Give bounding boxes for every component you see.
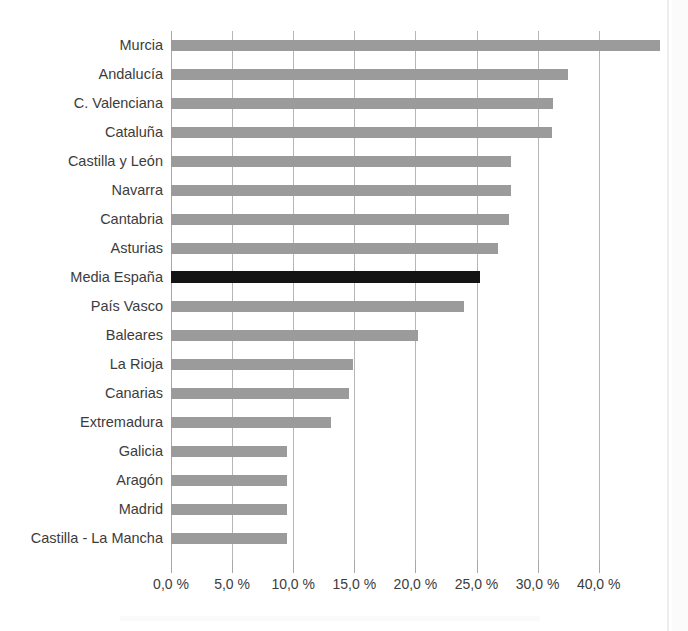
category-label: Navarra (0, 176, 163, 205)
category-label: Cataluña (0, 118, 163, 147)
chart-row: Extremadura (0, 408, 688, 437)
chart-row: Baleares (0, 321, 688, 350)
bar (171, 69, 568, 80)
x-axis-tickmarks (0, 560, 688, 574)
bar (171, 156, 511, 167)
bar (171, 417, 331, 428)
bar-highlight (171, 271, 480, 283)
page-edge-margin (672, 0, 688, 631)
page-edge-line (667, 0, 669, 631)
tick-label: 30,0 % (516, 576, 560, 592)
category-label: C. Valenciana (0, 89, 163, 118)
chart-row: Media España (0, 263, 688, 292)
tickmark (232, 560, 233, 573)
tickmark (415, 560, 416, 573)
category-label: Baleares (0, 321, 163, 350)
chart-row: Castilla y León (0, 147, 688, 176)
category-label: Extremadura (0, 408, 163, 437)
chart-row: Cantabria (0, 205, 688, 234)
chart-row: Castilla - La Mancha (0, 524, 688, 553)
category-label: Asturias (0, 234, 163, 263)
bar-chart-figure: MurciaAndalucíaC. ValencianaCataluñaCast… (0, 0, 688, 631)
chart-row: Navarra (0, 176, 688, 205)
category-label: Cantabria (0, 205, 163, 234)
tickmark (477, 560, 478, 573)
bar (171, 475, 287, 486)
category-label: Castilla y León (0, 147, 163, 176)
bar (171, 504, 287, 515)
chart-row: Andalucía (0, 60, 688, 89)
tick-label: 25,0 % (455, 576, 499, 592)
category-label: Murcia (0, 31, 163, 60)
chart-row: País Vasco (0, 292, 688, 321)
category-label: Canarias (0, 379, 163, 408)
tick-label: 10,0 % (271, 576, 315, 592)
bar-rows: MurciaAndalucíaC. ValencianaCataluñaCast… (0, 0, 688, 631)
bar (171, 359, 353, 370)
category-label: Media España (0, 263, 163, 292)
category-label: País Vasco (0, 292, 163, 321)
tick-label: 20,0 % (394, 576, 438, 592)
category-label: Castilla - La Mancha (0, 524, 163, 553)
tickmark (171, 560, 172, 573)
bar (171, 185, 511, 196)
bar (171, 533, 287, 544)
bar (171, 243, 498, 254)
bar (171, 388, 349, 399)
chart-row: Murcia (0, 31, 688, 60)
tickmark (293, 560, 294, 573)
tick-label: 40,0 % (577, 576, 621, 592)
category-label: Aragón (0, 466, 163, 495)
tickmark (538, 560, 539, 573)
tick-label: 15,0 % (333, 576, 377, 592)
category-label: La Rioja (0, 350, 163, 379)
tick-label: 5,0 % (214, 576, 250, 592)
page-smudge (120, 616, 540, 621)
chart-row: C. Valenciana (0, 89, 688, 118)
tick-label: 0,0 % (153, 576, 189, 592)
chart-row: Aragón (0, 466, 688, 495)
category-label: Galicia (0, 437, 163, 466)
bar (171, 446, 287, 457)
category-label: Madrid (0, 495, 163, 524)
chart-row: Cataluña (0, 118, 688, 147)
bar (171, 40, 660, 51)
x-axis-tick-labels: 0,0 %5,0 %10,0 %15,0 %20,0 %25,0 %30,0 %… (0, 576, 688, 598)
tickmark (599, 560, 600, 573)
category-label: Andalucía (0, 60, 163, 89)
chart-row: Galicia (0, 437, 688, 466)
bar (171, 214, 509, 225)
bar (171, 301, 464, 312)
chart-row: La Rioja (0, 350, 688, 379)
bar (171, 127, 552, 138)
chart-row: Canarias (0, 379, 688, 408)
tickmark (354, 560, 355, 573)
chart-row: Madrid (0, 495, 688, 524)
chart-row: Asturias (0, 234, 688, 263)
bar (171, 98, 553, 109)
bar (171, 330, 418, 341)
